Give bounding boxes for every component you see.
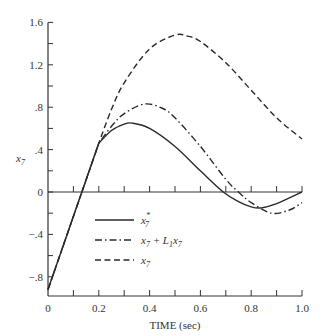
y-tick-label: −.4 xyxy=(29,228,44,240)
x-tick-label: 0.6 xyxy=(194,302,208,314)
y-tick-label: .4 xyxy=(35,144,44,156)
y-tick-label: 0 xyxy=(38,186,44,198)
y-tick-label: .8 xyxy=(35,101,44,113)
x-tick-label: 0.2 xyxy=(92,302,106,314)
legend-label: x7 + L1x7 xyxy=(140,234,183,249)
axes: 1.61.2.8.40−.4−.800.20.40.60.81.0TIME (s… xyxy=(15,16,309,332)
y-tick-label: 1.6 xyxy=(29,16,43,28)
series-dashdot-line xyxy=(48,104,302,290)
x-tick-label: 0.8 xyxy=(244,302,258,314)
legend-label: x*7 xyxy=(140,211,150,229)
x-tick-label: 0 xyxy=(45,302,51,314)
legend-label: x7 xyxy=(140,254,151,269)
chart: 1.61.2.8.40−.4−.800.20.40.60.81.0TIME (s… xyxy=(0,0,322,336)
curves xyxy=(48,34,302,289)
y-axis-title: x7 xyxy=(15,152,26,167)
x-axis-title: TIME (sec) xyxy=(149,319,200,332)
y-tick-label: −.8 xyxy=(29,271,44,283)
x-tick-label: 1.0 xyxy=(295,302,309,314)
x-tick-label: 0.4 xyxy=(143,302,157,314)
y-tick-label: 1.2 xyxy=(29,59,43,71)
series-solid-line xyxy=(48,123,302,290)
legend: x*7x7 + L1x7x7 xyxy=(95,211,183,269)
series-dashed-line xyxy=(48,34,302,289)
